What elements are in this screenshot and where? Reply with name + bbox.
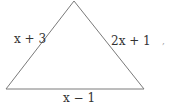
trailing-mark: , xyxy=(162,36,165,46)
right-side-label: 2x + 1 xyxy=(111,34,151,48)
triangle-diagram: x + 3 2x + 1 x − 1 , xyxy=(0,0,169,105)
left-side-label: x + 3 xyxy=(14,32,46,46)
bottom-side-label: x − 1 xyxy=(63,91,95,105)
